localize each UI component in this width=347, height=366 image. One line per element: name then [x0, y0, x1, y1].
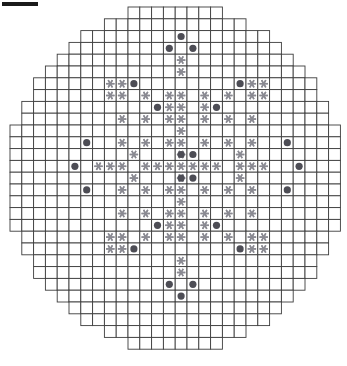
assembly-cell[interactable]: [152, 54, 164, 66]
assembly-cell[interactable]: [116, 172, 128, 184]
assembly-cell[interactable]: [281, 243, 293, 255]
assembly-cell[interactable]: [69, 125, 81, 137]
assembly-cell[interactable]: [187, 90, 199, 102]
control-rod-position[interactable]: [237, 245, 244, 252]
assembly-cell[interactable]: [199, 7, 211, 19]
assembly-cell[interactable]: [152, 208, 164, 220]
assembly-cell[interactable]: [10, 184, 22, 196]
assembly-cell[interactable]: [152, 290, 164, 302]
assembly-cell[interactable]: [258, 255, 270, 267]
assembly-cell[interactable]: [81, 231, 93, 243]
control-rod-position[interactable]: [189, 281, 196, 288]
assembly-cell[interactable]: [175, 278, 187, 290]
control-rod-position[interactable]: [284, 186, 291, 193]
assembly-cell[interactable]: [57, 196, 69, 208]
assembly-cell[interactable]: [199, 78, 211, 90]
assembly-cell[interactable]: [57, 101, 69, 113]
assembly-cell[interactable]: [293, 125, 305, 137]
assembly-cell[interactable]: [305, 149, 317, 161]
assembly-cell[interactable]: [187, 101, 199, 113]
assembly-cell[interactable]: [93, 184, 105, 196]
assembly-cell[interactable]: [258, 290, 270, 302]
assembly-cell[interactable]: [199, 125, 211, 137]
assembly-cell[interactable]: [69, 54, 81, 66]
assembly-cell[interactable]: [104, 19, 116, 31]
assembly-cell[interactable]: [93, 42, 105, 54]
assembly-cell[interactable]: [69, 184, 81, 196]
control-rod-position[interactable]: [213, 104, 220, 111]
assembly-cell[interactable]: [81, 290, 93, 302]
assembly-cell[interactable]: [104, 267, 116, 279]
assembly-cell[interactable]: [258, 149, 270, 161]
assembly-cell[interactable]: [199, 149, 211, 161]
assembly-cell[interactable]: [187, 78, 199, 90]
assembly-cell[interactable]: [317, 149, 329, 161]
assembly-cell[interactable]: [69, 113, 81, 125]
assembly-cell[interactable]: [329, 208, 341, 220]
assembly-cell[interactable]: [152, 278, 164, 290]
assembly-cell[interactable]: [140, 267, 152, 279]
assembly-cell[interactable]: [281, 219, 293, 231]
assembly-cell[interactable]: [45, 231, 57, 243]
assembly-cell[interactable]: [317, 125, 329, 137]
assembly-cell[interactable]: [69, 78, 81, 90]
assembly-cell[interactable]: [93, 314, 105, 326]
assembly-cell[interactable]: [128, 125, 140, 137]
assembly-cell[interactable]: [305, 219, 317, 231]
assembly-cell[interactable]: [45, 78, 57, 90]
assembly-cell[interactable]: [152, 302, 164, 314]
assembly-cell[interactable]: [293, 219, 305, 231]
assembly-cell[interactable]: [293, 208, 305, 220]
assembly-cell[interactable]: [293, 149, 305, 161]
assembly-cell[interactable]: [199, 337, 211, 349]
assembly-cell[interactable]: [128, 66, 140, 78]
assembly-cell[interactable]: [128, 19, 140, 31]
assembly-cell[interactable]: [104, 137, 116, 149]
assembly-cell[interactable]: [199, 314, 211, 326]
assembly-cell[interactable]: [104, 208, 116, 220]
assembly-cell[interactable]: [222, 278, 234, 290]
assembly-cell[interactable]: [140, 19, 152, 31]
assembly-cell[interactable]: [234, 184, 246, 196]
assembly-cell[interactable]: [45, 137, 57, 149]
assembly-cell[interactable]: [258, 101, 270, 113]
assembly-cell[interactable]: [222, 255, 234, 267]
assembly-cell[interactable]: [317, 101, 329, 113]
assembly-cell[interactable]: [34, 90, 46, 102]
assembly-cell[interactable]: [175, 42, 187, 54]
assembly-cell[interactable]: [34, 267, 46, 279]
assembly-cell[interactable]: [270, 90, 282, 102]
assembly-cell[interactable]: [22, 184, 34, 196]
assembly-cell[interactable]: [116, 125, 128, 137]
assembly-cell[interactable]: [270, 125, 282, 137]
assembly-cell[interactable]: [211, 243, 223, 255]
assembly-cell[interactable]: [57, 149, 69, 161]
assembly-cell[interactable]: [211, 42, 223, 54]
assembly-cell[interactable]: [104, 326, 116, 338]
assembly-cell[interactable]: [69, 290, 81, 302]
assembly-cell[interactable]: [305, 78, 317, 90]
assembly-cell[interactable]: [281, 90, 293, 102]
assembly-cell[interactable]: [34, 78, 46, 90]
assembly-cell[interactable]: [93, 137, 105, 149]
assembly-cell[interactable]: [211, 7, 223, 19]
assembly-cell[interactable]: [93, 208, 105, 220]
assembly-cell[interactable]: [234, 278, 246, 290]
assembly-cell[interactable]: [22, 137, 34, 149]
assembly-cell[interactable]: [128, 54, 140, 66]
assembly-cell[interactable]: [246, 278, 258, 290]
assembly-cell[interactable]: [34, 160, 46, 172]
assembly-cell[interactable]: [211, 172, 223, 184]
assembly-cell[interactable]: [175, 302, 187, 314]
assembly-cell[interactable]: [140, 302, 152, 314]
assembly-cell[interactable]: [281, 196, 293, 208]
assembly-cell[interactable]: [69, 90, 81, 102]
assembly-cell[interactable]: [57, 172, 69, 184]
assembly-cell[interactable]: [22, 113, 34, 125]
assembly-cell[interactable]: [317, 137, 329, 149]
assembly-cell[interactable]: [270, 243, 282, 255]
assembly-cell[interactable]: [34, 208, 46, 220]
assembly-cell[interactable]: [116, 255, 128, 267]
assembly-cell[interactable]: [281, 54, 293, 66]
assembly-cell[interactable]: [211, 302, 223, 314]
